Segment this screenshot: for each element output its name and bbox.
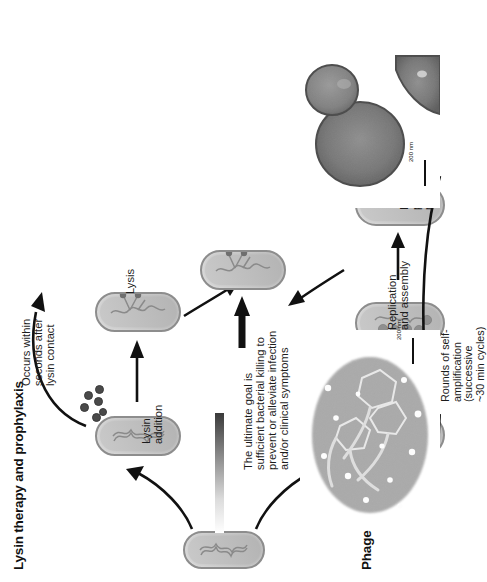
step-label-lysin-addition: Lysin addition <box>140 405 164 444</box>
bacterium-origin <box>183 531 265 569</box>
outcome-text: The ultimate goal is sufficient bacteria… <box>242 331 290 470</box>
arrow-lysin-to-lysis <box>130 338 144 404</box>
arrow-infection-to-replication <box>391 348 405 400</box>
lysin-molecule <box>99 408 107 416</box>
note-self-amplification: Rounds of self- amplification (successiv… <box>440 327 487 402</box>
step-label-infection: Infection <box>386 400 398 442</box>
dna-strand-icon <box>185 533 263 567</box>
bacterium-lysin-addition <box>95 416 181 456</box>
dna-strand-icon <box>97 418 179 454</box>
bacterium-outcome-killed <box>200 250 286 290</box>
gradient-connector <box>215 413 224 533</box>
note-lysin-speed: Occurs within seconds after lysin contac… <box>20 319 56 386</box>
step-label-lysis: Lysis <box>124 269 136 294</box>
arrow-to-outcome-cell <box>234 294 250 350</box>
lysin-molecule <box>94 397 103 406</box>
arrow-origin-to-lysin <box>120 457 198 535</box>
arrow-phage-lysis-to-outcome <box>286 264 348 310</box>
arrow-replication-to-release <box>391 230 405 282</box>
lysin-molecule <box>95 385 104 394</box>
lysed-contents-icon <box>97 294 179 330</box>
phage-particle-free <box>388 456 406 478</box>
lysed-contents-icon <box>202 252 284 288</box>
bacterium-lysed-lysin <box>95 292 181 332</box>
phage-particle-progeny <box>366 164 384 186</box>
section-title-phage-therapy: Phage therapy <box>360 480 375 570</box>
